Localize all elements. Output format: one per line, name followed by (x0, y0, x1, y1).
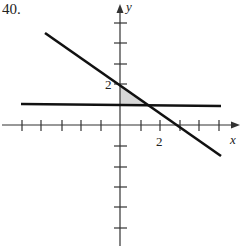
x-axis-arrow-icon (231, 122, 240, 129)
y-axis: 2 y (105, 0, 132, 246)
coordinate-plane: 2 x 2 y (0, 0, 243, 247)
x-tick-label-2: 2 (156, 134, 163, 149)
y-axis-label: y (124, 0, 132, 14)
line-2x-plus-3y-equals-6 (45, 33, 221, 156)
line-y-equals-1 (21, 104, 221, 106)
y-axis-arrow-icon (117, 4, 124, 13)
graph-figure: 40. 2 x (0, 0, 243, 247)
problem-number: 40. (2, 1, 21, 18)
x-axis-label: x (229, 132, 236, 147)
